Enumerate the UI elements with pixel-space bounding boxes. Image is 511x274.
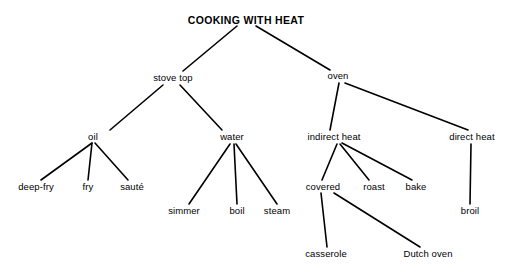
tree-node-saute: sauté	[120, 182, 144, 192]
tree-node-stove-top: stove top	[153, 73, 192, 83]
tree-node-bake: bake	[405, 182, 426, 192]
tree-node-indirect-heat: indirect heat	[307, 132, 360, 142]
tree-node-oven: oven	[327, 71, 348, 81]
tree-node-covered: covered	[306, 182, 341, 192]
tree-node-steam: steam	[264, 206, 290, 216]
tree-node-roast: roast	[363, 182, 385, 192]
tree-node-broil: broil	[461, 206, 479, 216]
tree-node-dutch-oven: Dutch oven	[403, 249, 452, 259]
tree-node-simmer: simmer	[168, 206, 200, 216]
tree-node-fry: fry	[83, 182, 94, 192]
tree-node-water: water	[220, 132, 244, 142]
tree-node-direct-heat: direct heat	[449, 132, 494, 142]
node-layer: COOKING WITH HEATstove topovenoilwaterin…	[0, 0, 511, 274]
tree-node-boil: boil	[229, 206, 244, 216]
tree-node-casserole: casserole	[305, 249, 347, 259]
tree-node-cooking-with-heat: COOKING WITH HEAT	[188, 15, 305, 26]
tree-diagram-canvas: COOKING WITH HEATstove topovenoilwaterin…	[0, 0, 511, 274]
tree-node-deep-fry: deep-fry	[18, 182, 54, 192]
tree-node-oil: oil	[88, 132, 98, 142]
